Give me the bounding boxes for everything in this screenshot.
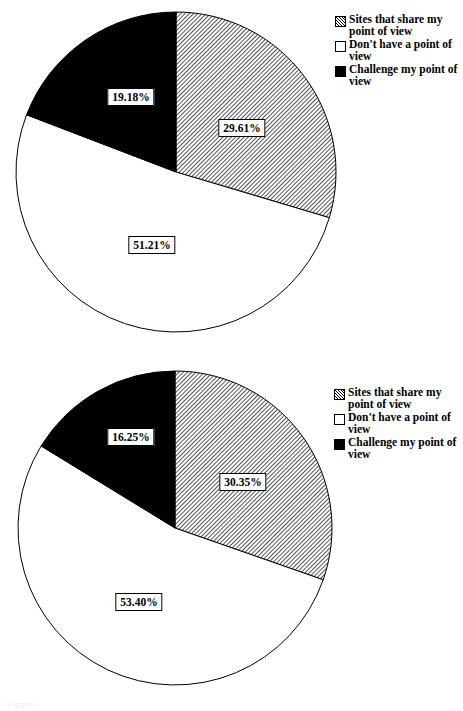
- pie-graphic-1: [14, 10, 338, 334]
- white-square-icon: [335, 41, 346, 52]
- legend-item-share-1: Sites that share my point of view: [335, 14, 463, 37]
- hatched-square-icon: [334, 389, 345, 400]
- slice-value-no-point-2: 53.40%: [115, 593, 162, 611]
- slice-value-share-1: 29.61%: [218, 119, 265, 137]
- pie-chart-1: 19.18% 29.61% 51.21% Sites that share my…: [0, 0, 448, 360]
- pie-svg-2: [16, 369, 334, 687]
- legend-label-no-point-2: Don't have a point of view: [348, 412, 460, 435]
- legend-item-share-2: Sites that share my point of view: [334, 387, 462, 410]
- slice-value-share-2: 30.35%: [219, 473, 266, 491]
- hatched-square-icon: [335, 16, 346, 27]
- legend-label-share-2: Sites that share my point of view: [348, 387, 460, 410]
- legend-item-challenge-1: Challenge my point of view: [335, 64, 463, 87]
- slice-value-challenge-1: 19.18%: [107, 88, 154, 106]
- pie-svg-1: [14, 10, 338, 334]
- black-square-icon: [334, 439, 345, 450]
- legend-label-no-point-1: Don't have a point of view: [349, 39, 461, 62]
- legend-item-challenge-2: Challenge my point of view: [334, 437, 462, 460]
- legend-label-challenge-1: Challenge my point of view: [349, 64, 461, 87]
- black-square-icon: [335, 66, 346, 77]
- slice-value-no-point-1: 51.21%: [128, 236, 175, 254]
- legend-1: Sites that share my point of view Don't …: [335, 14, 463, 90]
- slice-value-challenge-2: 16.25%: [107, 428, 154, 446]
- legend-item-no-point-1: Don't have a point of view: [335, 39, 463, 62]
- pie-chart-2: 16.25% 30.35% 53.40% Sites that share my…: [0, 357, 448, 711]
- legend-label-challenge-2: Challenge my point of view: [348, 437, 460, 460]
- white-square-icon: [334, 414, 345, 425]
- pie-graphic-2: [16, 369, 334, 687]
- legend-item-no-point-2: Don't have a point of view: [334, 412, 462, 435]
- footer-artifact-text: Figure 1: [6, 699, 40, 709]
- legend-2: Sites that share my point of view Don't …: [334, 387, 462, 463]
- legend-label-share-1: Sites that share my point of view: [349, 14, 461, 37]
